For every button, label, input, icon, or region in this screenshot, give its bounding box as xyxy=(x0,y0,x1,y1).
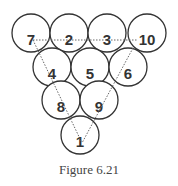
pin-label: 8 xyxy=(57,98,65,115)
pin-9: 9 xyxy=(80,81,118,119)
pin-2: 2 xyxy=(50,14,88,52)
pin-3: 3 xyxy=(88,14,126,52)
pin-label: 10 xyxy=(139,31,156,48)
pin-4: 4 xyxy=(33,48,71,86)
pin-5: 5 xyxy=(71,48,109,86)
pin-label: 5 xyxy=(86,65,94,82)
pin-6: 6 xyxy=(109,48,147,86)
pin-1: 1 xyxy=(61,116,99,154)
pin-label: 3 xyxy=(103,31,111,48)
pin-label: 6 xyxy=(124,65,132,82)
pin-7: 7 xyxy=(12,14,50,52)
pin-10: 10 xyxy=(128,14,166,52)
bowling-pin-diagram: 72310456891 xyxy=(0,0,178,160)
figure-caption: Figure 6.21 xyxy=(0,162,178,178)
